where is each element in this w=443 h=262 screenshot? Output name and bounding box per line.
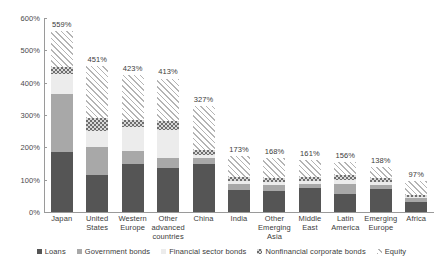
bar-segment-equity xyxy=(193,106,215,150)
bar-segment-govt xyxy=(51,94,73,152)
y-axis-tick-label: 600% xyxy=(20,14,40,23)
legend-swatch-icon xyxy=(377,249,382,254)
bar-segment-loans xyxy=(228,190,250,212)
x-axis-label: Emerging Europe xyxy=(363,214,398,232)
y-axis-tick-label: 300% xyxy=(20,111,40,120)
bar-slot: 156% xyxy=(328,18,363,212)
bar-slot: 173% xyxy=(221,18,256,212)
y-axis-tick-label: 500% xyxy=(20,46,40,55)
bar-segment-equity xyxy=(51,31,73,67)
bar-stack[interactable] xyxy=(370,167,392,212)
x-axis-label: Other advanced countries xyxy=(150,214,185,241)
x-axis-label: India xyxy=(221,214,256,223)
bar-segment-equity xyxy=(122,75,144,120)
bars-layer: 559%451%423%413%327%173%168%161%156%138%… xyxy=(44,18,434,212)
bar-slot: 327% xyxy=(186,18,221,212)
bar-value-label: 327% xyxy=(194,95,214,104)
bar-segment-fin xyxy=(51,74,73,94)
bar-value-label: 138% xyxy=(371,156,391,165)
bar-segment-loans xyxy=(193,164,215,213)
y-axis-tick-label: 400% xyxy=(20,78,40,87)
bar-stack[interactable] xyxy=(193,106,215,212)
y-axis-tick-label: 100% xyxy=(20,175,40,184)
bar-value-label: 97% xyxy=(409,170,424,179)
x-axis-label: Africa xyxy=(399,214,434,223)
x-axis-label: Latin America xyxy=(328,214,363,232)
bar-value-label: 413% xyxy=(158,67,178,76)
legend-item-govt[interactable]: Government bonds xyxy=(77,247,150,256)
bar-segment-loans xyxy=(405,202,427,212)
bar-value-label: 423% xyxy=(123,64,143,73)
x-axis-label: Western Europe xyxy=(115,214,150,232)
bar-slot: 423% xyxy=(115,18,150,212)
bar-stack[interactable] xyxy=(263,158,285,212)
bar-stack[interactable] xyxy=(405,181,427,212)
bar-segment-nonfin xyxy=(51,67,73,74)
bar-segment-nonfin xyxy=(122,120,144,127)
y-axis-tick-label: 0% xyxy=(29,208,40,217)
bar-segment-equity xyxy=(405,181,427,196)
bar-stack[interactable] xyxy=(334,162,356,212)
legend-swatch-icon xyxy=(37,249,42,254)
x-axis-label: China xyxy=(186,214,221,223)
bar-segment-loans xyxy=(334,194,356,212)
legend-swatch-icon xyxy=(77,249,82,254)
legend-label: Equity xyxy=(385,247,406,256)
legend-item-fin[interactable]: Financial sector bonds xyxy=(161,247,246,256)
x-axis-label: Japan xyxy=(44,214,79,223)
legend-item-equity[interactable]: Equity xyxy=(377,247,406,256)
bar-segment-equity xyxy=(157,79,179,121)
y-axis-tick-label: 200% xyxy=(20,143,40,152)
bar-segment-equity xyxy=(228,156,250,177)
bar-slot: 138% xyxy=(363,18,398,212)
bar-value-label: 451% xyxy=(87,55,107,64)
bar-segment-equity xyxy=(299,160,321,177)
bar-segment-govt xyxy=(122,151,144,165)
bar-segment-loans xyxy=(51,152,73,212)
legend-label: Loans xyxy=(45,247,66,256)
bar-stack[interactable] xyxy=(86,66,108,212)
bar-stack[interactable] xyxy=(157,79,179,213)
bar-stack[interactable] xyxy=(228,156,250,212)
bar-segment-loans xyxy=(263,191,285,212)
bar-segment-loans xyxy=(370,189,392,212)
bar-stack[interactable] xyxy=(122,75,144,212)
y-axis-tick-mark xyxy=(44,212,47,213)
bar-segment-govt xyxy=(334,184,356,195)
bar-value-label: 156% xyxy=(336,151,356,160)
bar-stack[interactable] xyxy=(299,160,321,212)
bar-segment-loans xyxy=(86,175,108,212)
bar-segment-equity xyxy=(370,167,392,178)
bar-value-label: 168% xyxy=(265,147,285,156)
bar-segment-loans xyxy=(122,164,144,212)
bar-value-label: 173% xyxy=(229,145,249,154)
legend-swatch-icon xyxy=(257,249,262,254)
bar-segment-loans xyxy=(299,188,321,212)
x-axis-label: United States xyxy=(79,214,114,232)
bar-slot: 97% xyxy=(399,18,434,212)
bar-segment-equity xyxy=(263,158,285,178)
bar-segment-govt xyxy=(86,147,108,174)
bar-value-label: 559% xyxy=(52,20,72,29)
bar-slot: 168% xyxy=(257,18,292,212)
chart-legend: LoansGovernment bondsFinancial sector bo… xyxy=(0,247,443,256)
bar-segment-govt xyxy=(157,158,179,169)
bar-stack[interactable] xyxy=(51,31,73,212)
bar-segment-loans xyxy=(157,168,179,212)
bar-segment-fin xyxy=(122,127,144,151)
bar-slot: 559% xyxy=(44,18,79,212)
legend-swatch-icon xyxy=(161,249,166,254)
bar-segment-nonfin xyxy=(157,121,179,130)
legend-item-nonfin[interactable]: Nonfinancial corporate bonds xyxy=(257,247,365,256)
bar-value-label: 161% xyxy=(300,149,320,158)
stacked-bar-chart: 0%100%200%300%400%500%600% 559%451%423%4… xyxy=(0,0,443,262)
legend-item-loans[interactable]: Loans xyxy=(37,247,66,256)
x-axis-category-labels: JapanUnited StatesWestern EuropeOther ad… xyxy=(44,214,434,244)
bar-segment-equity xyxy=(334,162,356,175)
bar-slot: 451% xyxy=(79,18,114,212)
x-axis-label: Middle East xyxy=(292,214,327,232)
bar-slot: 413% xyxy=(150,18,185,212)
bar-segment-fin xyxy=(157,130,179,158)
x-axis-line xyxy=(44,212,434,213)
bar-segment-fin xyxy=(86,131,108,147)
